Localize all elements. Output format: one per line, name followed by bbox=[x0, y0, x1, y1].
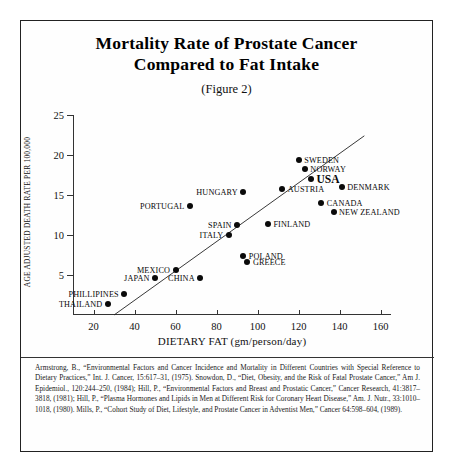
y-axis-tick-label: 5 bbox=[59, 270, 64, 281]
data-point-label-finland: FINLAND bbox=[273, 219, 310, 228]
chart-title-line-2: Compared to Fat Intake bbox=[21, 54, 432, 75]
data-point-label-china: CHINA bbox=[168, 274, 195, 283]
data-point-label-phillipines: PHILLIPINES bbox=[68, 290, 118, 299]
x-axis-tick bbox=[217, 310, 218, 315]
x-axis-tick-label: 100 bbox=[250, 321, 266, 332]
y-axis-line bbox=[73, 115, 74, 315]
y-axis-tick bbox=[67, 235, 73, 236]
y-axis-tick bbox=[67, 275, 73, 276]
x-axis-tick bbox=[258, 310, 259, 315]
data-point-label-japan: JAPAN bbox=[124, 274, 149, 283]
x-axis-tick bbox=[135, 310, 136, 315]
x-axis-tick bbox=[381, 310, 382, 315]
data-point-austria bbox=[279, 186, 285, 192]
data-point-japan bbox=[152, 275, 158, 281]
footnote-divider bbox=[21, 357, 434, 358]
data-point-thailand bbox=[105, 301, 111, 307]
x-axis-label: DIETARY FAT (gm/person/day) bbox=[73, 335, 391, 347]
y-axis-tick bbox=[67, 155, 73, 156]
x-axis-tick bbox=[299, 310, 300, 315]
data-point-new-zealand bbox=[331, 209, 337, 215]
data-point-finland bbox=[265, 221, 271, 227]
data-point-hungary bbox=[240, 189, 246, 195]
data-point-greece bbox=[244, 259, 250, 265]
x-axis-tick-label: 80 bbox=[211, 321, 222, 332]
data-point-label-thailand: THAILAND bbox=[59, 299, 103, 308]
data-point-mexico bbox=[173, 267, 179, 273]
plot-axes: 51015202520406080100120140160THAILANDPHI… bbox=[73, 115, 391, 315]
data-point-sweden bbox=[296, 157, 302, 163]
data-point-label-usa: USA bbox=[316, 173, 339, 185]
x-axis-tick bbox=[340, 310, 341, 315]
data-point-label-mexico: MEXICO bbox=[137, 266, 170, 275]
data-point-label-austria: AUSTRIA bbox=[288, 184, 325, 193]
data-point-label-new-zealand: NEW ZEALAND bbox=[339, 207, 400, 216]
citation-footnote: Armstrong, B., “Environmental Factors an… bbox=[35, 363, 420, 415]
data-point-norway bbox=[302, 166, 308, 172]
data-point-label-hungary: HUNGARY bbox=[196, 187, 238, 196]
y-axis-tick-label: 20 bbox=[54, 150, 65, 161]
figure-frame: Mortality Rate of Prostate Cancer Compar… bbox=[20, 20, 433, 452]
data-point-label-canada: CANADA bbox=[327, 199, 363, 208]
data-point-portugal bbox=[187, 203, 193, 209]
data-point-label-italy: ITALY bbox=[200, 231, 224, 240]
x-axis-tick-label: 20 bbox=[88, 321, 99, 332]
y-axis-tick bbox=[67, 115, 73, 116]
x-axis-tick bbox=[176, 310, 177, 315]
data-point-canada bbox=[318, 200, 324, 206]
data-point-label-portugal: PORTUGAL bbox=[140, 202, 184, 211]
x-axis-tick-label: 160 bbox=[373, 321, 389, 332]
y-axis-label: AGE ADJUSTED DEATH RATE PER 100,000 bbox=[23, 137, 32, 287]
data-point-china bbox=[197, 275, 203, 281]
y-axis-tick-label: 25 bbox=[54, 110, 65, 121]
y-axis-tick bbox=[67, 195, 73, 196]
data-point-label-norway: NORWAY bbox=[310, 165, 346, 174]
scatter-plot: AGE ADJUSTED DEATH RATE PER 100,000 DIET… bbox=[21, 107, 434, 357]
data-point-denmark bbox=[339, 184, 345, 190]
chart-title-line-1: Mortality Rate of Prostate Cancer bbox=[21, 33, 432, 54]
title-block: Mortality Rate of Prostate Cancer Compar… bbox=[21, 33, 432, 97]
x-axis-tick-label: 40 bbox=[129, 321, 140, 332]
x-axis-tick-label: 140 bbox=[332, 321, 348, 332]
x-axis-tick-label: 60 bbox=[170, 321, 181, 332]
y-axis-tick-label: 15 bbox=[54, 190, 65, 201]
x-axis-line bbox=[73, 314, 391, 315]
data-point-spain bbox=[234, 222, 240, 228]
x-axis-tick-label: 120 bbox=[291, 321, 307, 332]
data-point-phillipines bbox=[121, 291, 127, 297]
figure-number-label: (Figure 2) bbox=[21, 82, 432, 97]
data-point-label-greece: GREECE bbox=[253, 258, 286, 267]
data-point-poland bbox=[240, 253, 246, 259]
data-point-label-sweden: SWEDEN bbox=[304, 155, 339, 164]
data-point-usa bbox=[308, 176, 314, 182]
data-point-label-spain: SPAIN bbox=[208, 220, 232, 229]
x-axis-tick bbox=[94, 310, 95, 315]
data-point-label-denmark: DENMARK bbox=[347, 183, 389, 192]
y-axis-tick-label: 10 bbox=[54, 230, 65, 241]
data-point-italy bbox=[226, 232, 232, 238]
